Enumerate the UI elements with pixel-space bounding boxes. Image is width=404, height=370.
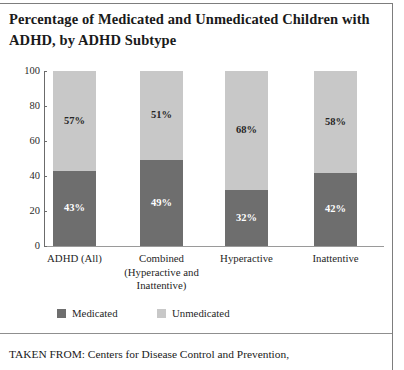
- y-axis-tick-label: 40: [10, 171, 40, 172]
- y-tick-text: 60: [14, 136, 40, 147]
- y-axis-line: [44, 71, 45, 247]
- y-axis-tick-label: 20: [10, 206, 40, 207]
- legend-color-swatch: [157, 309, 166, 318]
- plot-area: 020406080100 57%43%51%49%68%32%58%42% AD…: [0, 0, 392, 300]
- bar-segment-unmedicated: 57%: [53, 71, 96, 171]
- bar-segment-medicated: 49%: [140, 160, 183, 246]
- stacked-bar: 68%32%: [225, 71, 268, 246]
- bar-value-label: 43%: [64, 203, 85, 214]
- y-axis-tick-label: 60: [10, 136, 40, 137]
- frame-right-border: [392, 3, 393, 370]
- category-label-line: Inattentive): [102, 279, 222, 293]
- bar-value-label: 68%: [236, 125, 257, 136]
- stacked-bar: 58%42%: [314, 71, 357, 246]
- legend-item: Medicated: [57, 308, 118, 319]
- bar-segment-unmedicated: 51%: [140, 71, 183, 160]
- legend-label: Medicated: [72, 308, 118, 319]
- bar-segment-medicated: 43%: [53, 171, 96, 246]
- bar-segment-medicated: 32%: [225, 190, 268, 246]
- y-axis-tick-label: 100: [10, 66, 40, 67]
- category-label-line: Inattentive: [276, 252, 396, 266]
- y-tick-text: 100: [14, 66, 40, 77]
- category-label-line: (Hyperactive and: [102, 266, 222, 280]
- legend-color-swatch: [57, 309, 66, 318]
- y-tick-text: 20: [14, 206, 40, 217]
- x-axis-category-label: Inattentive: [276, 252, 396, 266]
- bar-segment-unmedicated: 58%: [314, 71, 357, 173]
- y-axis-tick-mark: [44, 246, 47, 247]
- x-axis-line: [44, 246, 384, 247]
- bar-value-label: 49%: [151, 198, 172, 209]
- stacked-bar: 57%43%: [53, 71, 96, 246]
- bar-segment-medicated: 42%: [314, 173, 357, 247]
- y-axis-tick-mark: [44, 176, 47, 177]
- bar-value-label: 57%: [64, 116, 85, 127]
- legend-label: Unmedicated: [172, 308, 230, 319]
- y-axis-tick-mark: [44, 71, 47, 72]
- bar-value-label: 58%: [325, 117, 346, 128]
- stacked-bar: 51%49%: [140, 71, 183, 246]
- source-attribution: TAKEN FROM: Centers for Disease Control …: [9, 347, 389, 362]
- legend-item: Unmedicated: [157, 308, 230, 319]
- chart-legend: MedicatedUnmedicated: [0, 308, 392, 326]
- bar-value-label: 51%: [151, 110, 172, 121]
- bar-value-label: 42%: [325, 204, 346, 215]
- y-axis-tick-mark: [44, 106, 47, 107]
- footer-divider: [0, 333, 392, 334]
- y-axis-tick-mark: [44, 141, 47, 142]
- bar-segment-unmedicated: 68%: [225, 71, 268, 190]
- y-tick-text: 40: [14, 171, 40, 182]
- y-axis-tick-label: 80: [10, 101, 40, 102]
- y-tick-text: 0: [14, 241, 40, 252]
- y-axis-tick-mark: [44, 211, 47, 212]
- chart-figure: Percentage of Medicated and Unmedicated …: [0, 0, 404, 370]
- y-axis-tick-label: 0: [10, 241, 40, 242]
- bar-value-label: 32%: [236, 213, 257, 224]
- y-tick-text: 80: [14, 101, 40, 112]
